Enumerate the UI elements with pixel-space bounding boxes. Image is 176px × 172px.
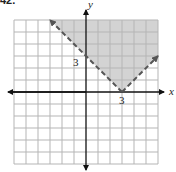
y-tick-label-3: 3 <box>73 56 79 68</box>
x-tick-label-3: 3 <box>119 94 125 106</box>
y-axis-label: y <box>87 0 93 10</box>
inequality-graph: y x 3 3 <box>0 0 176 172</box>
x-axis-label: x <box>168 85 174 97</box>
